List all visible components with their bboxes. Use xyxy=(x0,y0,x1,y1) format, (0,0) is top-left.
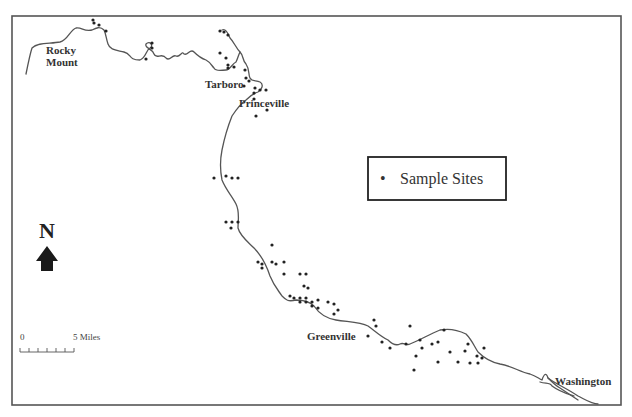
sample-site-point xyxy=(230,220,233,223)
sample-site-point xyxy=(298,300,301,303)
sample-site-point xyxy=(414,354,417,357)
sample-site-point xyxy=(252,91,255,94)
sample-site-point xyxy=(374,324,377,327)
sample-site-point xyxy=(91,18,94,21)
map-canvas: RockyMountTarboroPrincevilleGreenvilleWa… xyxy=(0,0,632,417)
sample-site-point xyxy=(336,308,339,311)
sample-site-point xyxy=(304,272,307,275)
sample-site-point xyxy=(270,243,273,246)
sample-site-point xyxy=(270,260,273,263)
sample-site-point xyxy=(144,57,147,60)
city-label: Washington xyxy=(555,375,611,387)
sample-site-point xyxy=(302,284,305,287)
sample-site-point xyxy=(226,63,229,66)
sample-site-point xyxy=(310,300,313,303)
sample-site-point xyxy=(466,342,469,345)
sample-site-point xyxy=(260,262,263,265)
sample-site-point xyxy=(274,262,277,265)
legend: • Sample Sites xyxy=(368,157,506,200)
sample-site-point xyxy=(229,226,232,229)
sample-site-point xyxy=(97,23,100,26)
sample-site-point xyxy=(430,342,433,345)
sample-site-point xyxy=(236,176,239,179)
sample-site-point xyxy=(282,272,285,275)
sample-site-point xyxy=(292,296,295,299)
sample-site-point xyxy=(476,361,479,364)
sample-site-point xyxy=(475,354,478,357)
sample-site-point xyxy=(306,286,309,289)
city-labels: RockyMountTarboroPrincevilleGreenvilleWa… xyxy=(46,44,611,387)
scale-end-label: 5 Miles xyxy=(73,332,101,342)
sample-site-point xyxy=(232,65,235,68)
sample-site-point xyxy=(218,51,221,54)
sample-site-point xyxy=(463,349,466,352)
sample-site-point xyxy=(418,338,421,341)
legend-label: Sample Sites xyxy=(400,170,483,188)
sample-site-point xyxy=(226,33,229,36)
river-network xyxy=(26,28,598,404)
sample-site-point xyxy=(404,342,407,345)
sample-site-point xyxy=(316,306,319,309)
sample-site-point xyxy=(224,174,227,177)
sample-site-point xyxy=(150,46,153,49)
sample-site-point xyxy=(436,340,439,343)
sample-site-point xyxy=(448,350,451,353)
north-letter: N xyxy=(39,218,55,243)
sample-site-symbol-icon: • xyxy=(380,170,386,187)
sample-site-point xyxy=(244,76,247,79)
sample-site-point xyxy=(150,41,153,44)
sample-site-point xyxy=(442,328,445,331)
city-label: Rocky xyxy=(46,44,76,56)
sample-site-point xyxy=(482,346,485,349)
sample-site-point xyxy=(420,346,423,349)
sample-site-point xyxy=(480,356,483,359)
city-label: Tarboro xyxy=(205,78,244,90)
city-label: Mount xyxy=(46,56,78,68)
sample-site-point xyxy=(468,361,471,364)
sample-site-point xyxy=(408,324,411,327)
sample-site-point xyxy=(236,220,239,223)
sample-site-point xyxy=(258,88,261,91)
sample-site-point xyxy=(254,114,257,117)
sample-site-point xyxy=(332,312,335,315)
sample-site-point xyxy=(366,334,369,337)
sample-site-point xyxy=(310,304,313,307)
sample-site-point xyxy=(316,298,319,301)
sample-site-point xyxy=(253,86,256,89)
scale-bar-line xyxy=(20,348,74,352)
sample-site-point xyxy=(260,266,263,269)
city-label: Greenville xyxy=(307,330,356,342)
sample-site-point xyxy=(298,296,301,299)
sample-site-point xyxy=(243,68,246,71)
sample-site-point xyxy=(226,66,229,69)
map-frame xyxy=(12,16,621,405)
city-label: Princeville xyxy=(239,97,289,109)
sample-site-point xyxy=(326,300,329,303)
sample-site-point xyxy=(218,29,221,32)
sample-site-point xyxy=(256,260,259,263)
sample-site-point xyxy=(332,302,335,305)
sample-site-point xyxy=(224,220,227,223)
sample-site-point xyxy=(380,340,383,343)
sample-site-point xyxy=(222,30,225,33)
scale-bar: 0 5 Miles xyxy=(20,332,101,352)
sample-site-point xyxy=(304,300,307,303)
sample-site-point xyxy=(288,294,291,297)
river-segment xyxy=(221,30,579,400)
sample-site-point xyxy=(372,318,375,321)
sample-site-point xyxy=(92,21,95,24)
north-arrow: N xyxy=(36,218,58,271)
sample-site-point xyxy=(456,360,459,363)
sample-site-point xyxy=(224,56,227,59)
sample-site-point xyxy=(104,29,107,32)
sample-site-point xyxy=(436,360,439,363)
sample-site-point xyxy=(282,260,285,263)
sample-site-point xyxy=(298,272,301,275)
north-arrow-icon xyxy=(36,246,58,271)
sample-site-point xyxy=(212,176,215,179)
scale-start-label: 0 xyxy=(20,332,25,342)
sample-site-point xyxy=(264,88,267,91)
sample-site-point xyxy=(388,346,391,349)
sample-site-point xyxy=(247,79,250,82)
sample-site-point xyxy=(304,296,307,299)
